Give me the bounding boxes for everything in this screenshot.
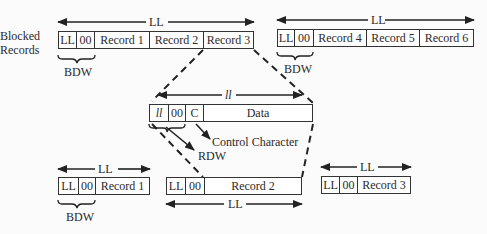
ll-field: LL — [58, 31, 76, 49]
data-field: Data — [203, 104, 313, 122]
zero-field: 00 — [78, 177, 95, 195]
record-field: Record 6 — [419, 29, 474, 47]
rdw-label: RDW — [198, 150, 226, 162]
ll-length-label: LL — [98, 163, 113, 175]
bdw-label: BDW — [64, 66, 92, 78]
ll-field: LL — [58, 177, 78, 195]
ll-field: LL — [321, 176, 339, 194]
bdw-label: BDW — [284, 63, 312, 75]
zero-field: 00 — [185, 177, 204, 195]
ll-length-label: LL — [228, 198, 243, 210]
zero-field: 00 — [168, 104, 185, 122]
record-field: Record 4 — [313, 29, 366, 47]
bdw-label: BDW — [66, 211, 94, 223]
zero-field: 00 — [339, 176, 357, 194]
blocked-records-label: Blocked Records — [0, 30, 40, 56]
ll-length-label: LL — [360, 161, 375, 173]
ll-lower-length-label: ll — [225, 89, 232, 101]
record-format-diagram: Blocked Records LL LL ll LL LL LL LL 00 … — [0, 0, 487, 234]
ll-length-label: LL — [149, 16, 164, 28]
records-label-line2: Records — [0, 44, 40, 56]
ll-field: LL — [166, 177, 185, 195]
zero-field: 00 — [76, 31, 94, 49]
ll-length-label: LL — [371, 14, 386, 26]
blocked-label-line1: Blocked — [0, 30, 40, 42]
control-character-label: Control Character — [212, 136, 298, 148]
ll-lower-field: ll — [149, 104, 168, 122]
zero-field: 00 — [294, 29, 313, 47]
record-field: Record 3 — [357, 176, 411, 194]
record-field: Record 1 — [94, 31, 149, 49]
record-field: Record 2 — [149, 31, 203, 49]
record-field: Record 1 — [95, 177, 150, 195]
control-char-field: C — [185, 104, 203, 122]
record-field: Record 3 — [203, 31, 254, 49]
ll-field: LL — [277, 29, 294, 47]
record-field: Record 5 — [366, 29, 419, 47]
record-field: Record 2 — [204, 177, 302, 195]
